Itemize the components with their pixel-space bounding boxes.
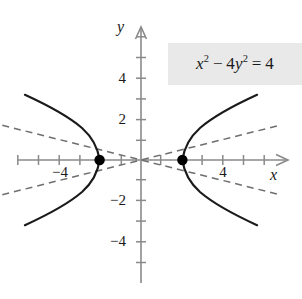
equation-equals-sign: = — [252, 54, 262, 73]
y-tick-label-neg2: −2 — [96, 192, 126, 209]
equation-coefficient-4: 4 — [226, 54, 235, 73]
figure-canvas: −4 4 4 2 −2 −4 y x x2 − 4y2 = 4 — [0, 0, 302, 299]
y-tick-label-neg4: −4 — [96, 233, 126, 250]
equation-operator-minus: − — [213, 54, 223, 73]
y-axis-label: y — [117, 18, 124, 36]
equation-label-text: x2 − 4y2 = 4 — [196, 54, 274, 74]
equation-var-x: x — [196, 54, 204, 73]
x-axis-label: x — [270, 166, 277, 184]
equation-label-box: x2 − 4y2 = 4 — [168, 43, 302, 85]
y-tick-label-2: 2 — [104, 111, 126, 128]
x-tick-label-neg4: −4 — [46, 164, 74, 181]
vertex-point-left — [94, 155, 104, 165]
equation-var-y: y — [235, 54, 243, 73]
x-tick-label-4: 4 — [209, 164, 237, 181]
vertex-point-right — [177, 155, 187, 165]
y-tick-label-4: 4 — [104, 70, 126, 87]
equation-rhs-4: 4 — [265, 54, 274, 73]
